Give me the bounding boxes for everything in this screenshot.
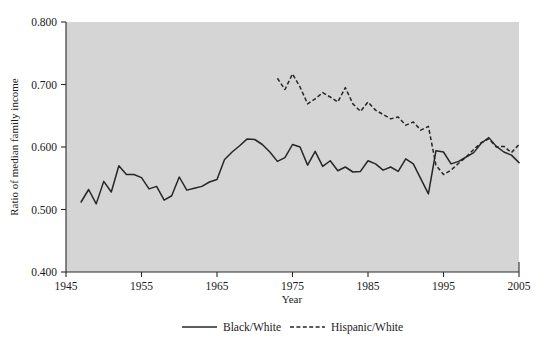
x-tick-label: 1945	[55, 280, 78, 292]
y-tick-label: 0.500	[31, 204, 57, 216]
legend-label-hispanic-white: Hispanic/White	[331, 321, 403, 334]
y-axis-label: Ratio of median family income	[8, 78, 20, 216]
legend-label-black-white: Black/White	[223, 321, 281, 333]
x-tick-label: 1955	[130, 280, 153, 292]
plot-area-background	[66, 22, 519, 272]
y-tick-label: 0.700	[31, 79, 57, 91]
x-tick-label: 1985	[357, 280, 380, 292]
y-tick-label: 0.600	[31, 141, 57, 153]
x-axis-label: Year	[282, 293, 303, 305]
y-tick-label: 0.800	[31, 16, 57, 28]
x-tick-label: 1965	[206, 280, 229, 292]
x-tick-label: 1995	[432, 280, 455, 292]
income-ratio-line-chart: 0.4000.5000.6000.7000.800 19451955196519…	[0, 0, 559, 345]
x-tick-label: 2005	[508, 280, 531, 292]
x-tick-label: 1975	[281, 280, 304, 292]
y-tick-label: 0.400	[31, 266, 57, 278]
